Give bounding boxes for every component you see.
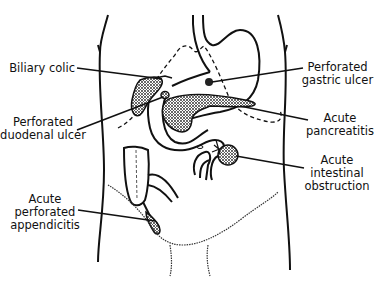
label-acute-perforated-appendicitis: Acute perforated appendicitis (10, 193, 80, 232)
label-perforated-gastric-ulcer: Perforated gastric ulcer (300, 61, 375, 87)
torso-outline (98, 15, 290, 270)
label-perforated-duodenal-ulcer: Perforated duodenal ulcer (0, 116, 86, 142)
label-acute-pancreatitis: Acute pancreatitis (305, 112, 375, 138)
label-acute-intestinal-obstruction: Acute intestinal obstruction (302, 154, 372, 193)
label-line: pancreatitis (305, 125, 375, 138)
gastric-ulcer-spot (205, 78, 213, 86)
gallbladder (131, 77, 162, 116)
label-line: gastric ulcer (300, 74, 375, 87)
leader-lines (77, 68, 308, 221)
small-bowel (194, 152, 210, 180)
label-line: duodenal ulcer (0, 129, 86, 142)
label-line: obstruction (302, 180, 372, 193)
label-line: appendicitis (10, 219, 80, 232)
abdomen-diagram (0, 0, 375, 286)
label-biliary-colic: Biliary colic (5, 62, 75, 75)
label-line: Biliary colic (5, 62, 75, 75)
